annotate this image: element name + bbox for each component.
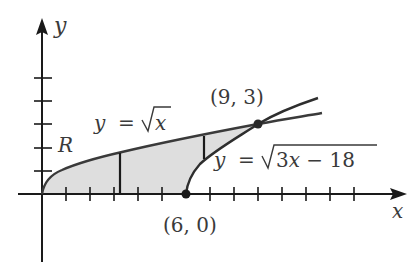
svg-text:x: x xyxy=(155,111,166,135)
label-sqrt-3x-minus-18: y = 3x − 18 xyxy=(213,145,377,172)
svg-text:=: = xyxy=(118,111,135,135)
rad-rest: − 18 xyxy=(300,148,355,172)
svg-text:=: = xyxy=(238,148,255,172)
x-axis-label: x xyxy=(392,199,403,223)
label-sqrt-x: y = x xyxy=(93,107,171,135)
point-9-3 xyxy=(254,120,263,129)
point-label-9-3: (9, 3) xyxy=(210,85,264,109)
y-axis-label: y xyxy=(53,13,67,38)
svg-text:y: y xyxy=(93,111,106,135)
point-6-0 xyxy=(182,190,191,199)
region-r-fill xyxy=(42,124,258,194)
region-label: R xyxy=(57,133,73,157)
svg-text:y: y xyxy=(213,148,226,172)
rad-x: x xyxy=(289,148,300,172)
svg-text:3x − 18: 3x − 18 xyxy=(276,148,355,172)
rad-3: 3 xyxy=(276,148,289,172)
region-diagram: y x R y = x y = 3x − 18 (9, 3) (6, 0) xyxy=(0,0,417,280)
point-label-6-0: (6, 0) xyxy=(163,213,217,237)
